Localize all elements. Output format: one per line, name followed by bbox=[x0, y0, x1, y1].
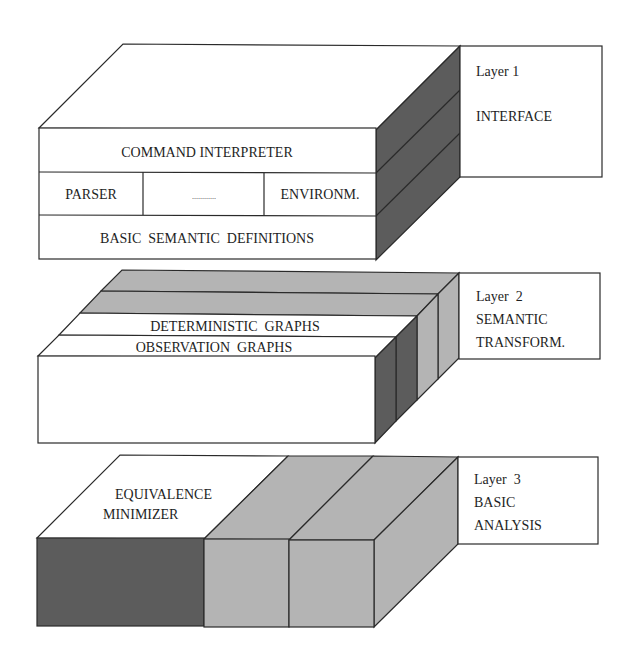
parser-label: PARSER bbox=[65, 187, 117, 202]
layer-3-front-block-1 bbox=[37, 538, 204, 626]
layer-1-label-box: Layer 1 INTERFACE bbox=[460, 46, 602, 177]
layer-2-title: Layer 2 bbox=[476, 289, 523, 304]
layer-2-top-strip-1 bbox=[101, 270, 459, 294]
layer-3-block: EQUIVALENCE MINIMIZER bbox=[37, 455, 458, 627]
layer-2-front-face bbox=[38, 356, 375, 443]
layer-3-title: Layer 3 bbox=[474, 472, 521, 487]
minimizer-label: MINIMIZER bbox=[103, 507, 179, 522]
layer-3-front-block-2 bbox=[204, 539, 289, 627]
layer-2-label-box: Layer 2 SEMANTIC TRANSFORM. bbox=[459, 273, 600, 359]
observation-graphs-label: OBSERVATION GRAPHS bbox=[136, 340, 293, 355]
ellipsis-placeholder: ............ bbox=[192, 192, 216, 201]
layer-1-name: INTERFACE bbox=[476, 109, 552, 124]
layer-1-block: COMMAND INTERPRETER PARSER ............ … bbox=[39, 44, 460, 260]
layer-2-name-line1: SEMANTIC bbox=[476, 312, 548, 327]
command-interpreter-label: COMMAND INTERPRETER bbox=[121, 145, 293, 160]
layer-2-name-line2: TRANSFORM. bbox=[476, 335, 565, 350]
layer-3-label-box: Layer 3 BASIC ANALYSIS bbox=[458, 457, 598, 544]
layer-3-front-block-3 bbox=[289, 540, 374, 627]
environment-label: ENVIRONM. bbox=[281, 187, 360, 202]
basic-semantic-definitions-label: BASIC SEMANTIC DEFINITIONS bbox=[100, 231, 314, 246]
layer-3-name-line1: BASIC bbox=[474, 495, 515, 510]
layered-architecture-diagram: COMMAND INTERPRETER PARSER ............ … bbox=[0, 0, 632, 662]
layer-2-top-strip-2 bbox=[80, 291, 438, 316]
equivalence-label: EQUIVALENCE bbox=[115, 487, 212, 502]
layer-3-name-line2: ANALYSIS bbox=[474, 518, 542, 533]
layer-1-title: Layer 1 bbox=[476, 64, 519, 79]
layer-2-block: DETERMINISTIC GRAPHS OBSERVATION GRAPHS bbox=[38, 270, 459, 443]
deterministic-graphs-label: DETERMINISTIC GRAPHS bbox=[150, 319, 320, 334]
